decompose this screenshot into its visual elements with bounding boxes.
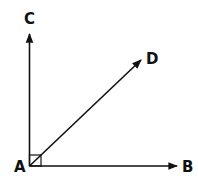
label-a: A	[14, 158, 26, 176]
label-b: B	[182, 158, 193, 176]
label-d: D	[146, 50, 158, 68]
ray-ad	[30, 60, 142, 166]
label-c: C	[24, 10, 35, 28]
geometry-diagram: C D A B	[0, 0, 198, 179]
